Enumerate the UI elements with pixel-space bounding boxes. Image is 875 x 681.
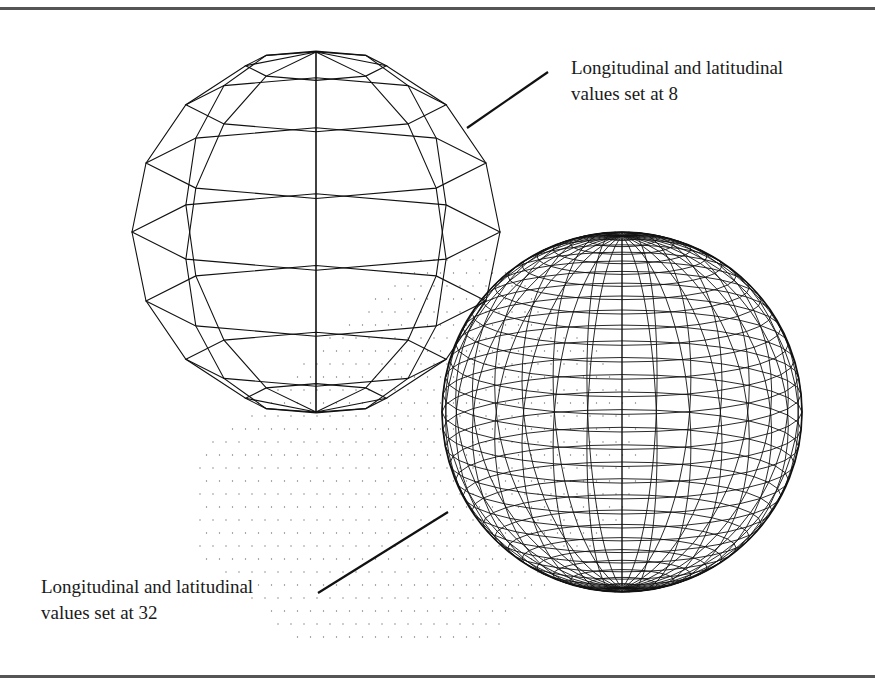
leader-32	[318, 512, 448, 593]
label-sphere-8-line2: values set at 8	[571, 81, 783, 107]
label-sphere-32-line1: Longitudinal and latitudinal	[41, 574, 253, 600]
sphere-wireframe-32-segments	[442, 232, 802, 592]
label-sphere-32: Longitudinal and latitudinal values set …	[41, 574, 253, 626]
sphere-wireframe-8-segments	[132, 48, 500, 416]
label-sphere-32-line2: values set at 32	[41, 600, 253, 626]
label-sphere-8: Longitudinal and latitudinal values set …	[571, 55, 783, 107]
leader-8	[467, 72, 548, 128]
label-sphere-8-line1: Longitudinal and latitudinal	[571, 55, 783, 81]
